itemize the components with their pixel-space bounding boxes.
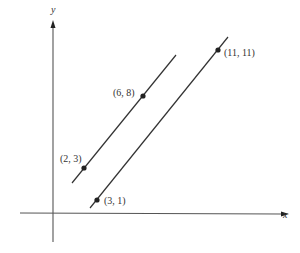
point-label-11-11: (11, 11): [224, 47, 255, 59]
point-6-8: [140, 93, 145, 98]
point-label-3-1: (3, 1): [104, 195, 126, 207]
x-axis: x: [20, 209, 289, 220]
upper-line: (2, 3) (6, 8): [60, 55, 176, 183]
coordinate-plane-figure: y x (2, 3) (6, 8) (3, 1) (11, 11): [0, 0, 300, 253]
point-11-11: [215, 47, 220, 52]
x-axis-label: x: [282, 209, 288, 220]
y-axis: y: [50, 4, 56, 242]
point-3-1: [94, 197, 99, 202]
point-label-6-8: (6, 8): [113, 87, 135, 99]
point-label-2-3: (2, 3): [60, 153, 82, 165]
lower-line: (3, 1) (11, 11): [90, 37, 255, 208]
y-axis-arrow-icon: [51, 20, 56, 28]
y-axis-label: y: [50, 4, 56, 15]
point-2-3: [81, 165, 86, 170]
